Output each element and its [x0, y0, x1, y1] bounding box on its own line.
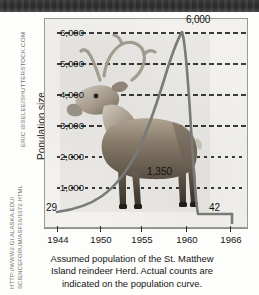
x-tick-mark-1950: [100, 226, 101, 232]
figure-caption: Assumed population of the St. Matthew Is…: [28, 253, 236, 290]
gridline-3000: [57, 125, 246, 127]
y-tick-6000: 6,000: [44, 27, 84, 38]
caption-line-1: Assumed population of the St. Matthew: [28, 253, 236, 265]
x-tick-mark-1955: [141, 226, 142, 232]
annotation-mid-count: 1,350: [147, 166, 172, 177]
y-tick-5000: 5,000: [44, 58, 84, 69]
x-axis-line: [44, 228, 248, 229]
gridline-6000: [57, 32, 246, 34]
x-tick-mark-1944: [57, 226, 58, 232]
gridline-1000: [57, 187, 246, 189]
annotation-crash-count: 42: [209, 202, 220, 213]
photo-credit-text: ERIC ISSELEE/SHUTTERSTOCK.COM: [19, 32, 26, 147]
x-tick-1955: 1955: [131, 234, 152, 245]
y-tick-3000: 3,000: [44, 120, 84, 131]
annotation-start-count: 29: [46, 202, 57, 213]
chart-overlay: 6,000 5,000 4,000 3,000 2,000 1,000: [44, 18, 248, 228]
source-url-line-2: SCIENCEFORUM/ASF16/1672.HTML: [17, 185, 23, 289]
gridline-2000: [57, 156, 246, 158]
x-tick-1966: 1966: [220, 234, 241, 245]
y-tick-1000: 1,000: [44, 182, 84, 193]
x-tick-1950: 1950: [90, 234, 111, 245]
gridline-5000: [57, 63, 246, 65]
source-url-line-1: HTTP://WWW2.GI.ALASKA.EDU/: [9, 197, 15, 289]
x-tick-1960: 1960: [176, 234, 197, 245]
caption-line-2: Island reindeer Herd. Actual counts are: [28, 265, 236, 277]
x-tick-mark-1960: [186, 226, 187, 232]
x-tick-mark-1966: [230, 226, 231, 232]
annotation-peak-count: 6,000: [186, 14, 210, 25]
figure-container: ERIC ISSELEE/SHUTTERSTOCK.COM HTTP://WWW…: [0, 0, 259, 295]
caption-line-3: indicated on the population curve.: [28, 278, 236, 290]
scan-top-band: [0, 0, 259, 12]
x-tick-1944: 1944: [47, 234, 68, 245]
y-tick-4000: 4,000: [44, 89, 84, 100]
y-tick-2000: 2,000: [44, 151, 84, 162]
gridline-4000: [57, 94, 246, 96]
